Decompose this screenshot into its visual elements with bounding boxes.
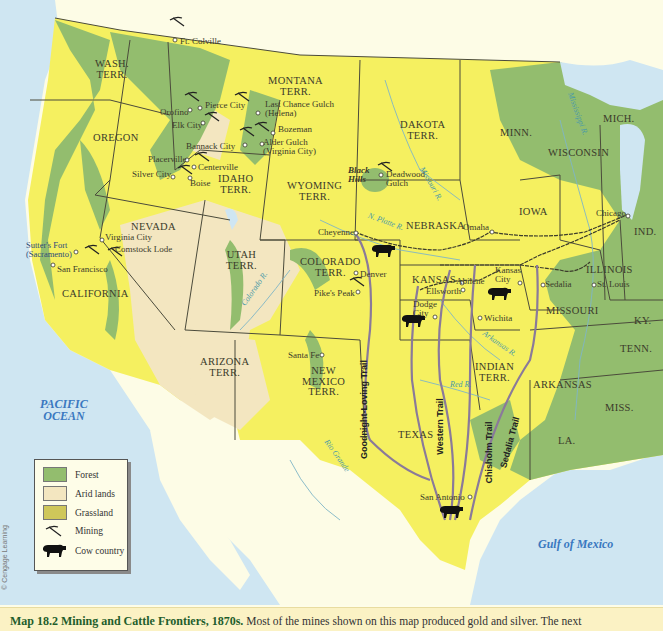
river-label: Red R. xyxy=(450,381,471,389)
state-label: INDIANTERR. xyxy=(475,362,514,383)
state-label: WYOMINGTERR. xyxy=(287,181,342,202)
place-label: Virginia City xyxy=(105,233,152,242)
place-label: Boise xyxy=(190,179,211,188)
state-label: WISCONSIN xyxy=(548,148,609,159)
state-label: MISSOURI xyxy=(546,306,599,317)
place-label: Silver City xyxy=(132,170,171,179)
place-label: Pike's Peak xyxy=(314,289,355,298)
map-caption: Map 18.2 Mining and Cattle Frontiers, 18… xyxy=(0,607,663,631)
state-label: UTAHTERR. xyxy=(226,250,257,271)
place-label: KansasCity xyxy=(495,266,521,284)
pacific-ocean-label: PACIFICOCEAN xyxy=(40,398,88,422)
state-label: IND. xyxy=(634,227,657,238)
cow-icon xyxy=(43,544,67,558)
place-label: Orofino xyxy=(160,108,189,117)
trail-label: Western Trail xyxy=(436,398,445,454)
state-label: TEXAS xyxy=(398,430,433,441)
arid-swatch-icon xyxy=(43,486,67,501)
state-label: KY. xyxy=(634,316,651,327)
state-label: COLORADOTERR. xyxy=(300,257,361,278)
state-label: KANSAS xyxy=(412,275,456,286)
place-label: Wichita xyxy=(484,314,512,323)
legend-item-grassland: Grassland xyxy=(43,505,113,520)
state-label: IDAHOTERR. xyxy=(218,174,253,195)
state-label: NEVADA xyxy=(131,222,176,233)
state-label: LA. xyxy=(558,436,576,447)
caption-title: Mining and Cattle Frontiers, 1870s. xyxy=(61,614,243,628)
place-label: Alder Gulch(Virginia City) xyxy=(263,138,316,156)
place-label: Sedalia xyxy=(545,280,572,289)
place-label: DodgeCity xyxy=(413,300,437,318)
pickaxe-icon xyxy=(43,524,67,538)
legend-item-cow-country: Cow country xyxy=(43,544,124,558)
place-label: Ellsworth xyxy=(426,287,461,296)
place-label: Comstock Lode xyxy=(115,245,172,254)
state-label: WASH.TERR. xyxy=(95,59,129,80)
place-label: San Francisco xyxy=(57,265,108,274)
place-label: Pierce City xyxy=(205,101,245,110)
legend-item-mining: Mining xyxy=(43,524,103,538)
place-label: Cheyenne xyxy=(318,228,354,237)
place-label: Santa Fe xyxy=(288,351,319,360)
black-hills-label: BlackHills xyxy=(348,166,370,184)
state-label: NEBRASKA xyxy=(406,221,465,232)
place-label: Bannack City xyxy=(186,142,235,151)
place-label: Denver xyxy=(360,270,387,279)
gulf-of-mexico-label: Gulf of Mexico xyxy=(538,538,613,550)
place-label: Elk City xyxy=(172,121,202,130)
state-label: CALIFORNIA xyxy=(62,289,129,300)
place-label: Centerville xyxy=(198,163,238,172)
map-legend: Forest Arid lands Grassland Mining Cow c… xyxy=(34,459,128,571)
state-label: MONTANATERR. xyxy=(268,76,323,97)
state-label: TENN. xyxy=(620,344,652,355)
grassland-swatch-icon xyxy=(43,505,67,520)
place-label: Bozeman xyxy=(278,125,312,134)
place-label: St. Louis xyxy=(597,280,630,289)
copyright-credit: © Cengage Learning xyxy=(2,520,14,600)
state-label: MICH. xyxy=(603,114,635,125)
place-label: Ft. Colville xyxy=(180,37,221,46)
forest-swatch-icon xyxy=(43,467,67,482)
state-label: ARKANSAS xyxy=(533,380,592,391)
place-label: San Antonio xyxy=(420,493,465,502)
state-label: DAKOTATERR. xyxy=(400,120,445,141)
state-label: IOWA xyxy=(519,207,548,218)
place-label: Placerville xyxy=(148,155,186,164)
caption-text: Most of the mines shown on this map prod… xyxy=(246,615,581,627)
place-label: Abilene xyxy=(456,277,485,286)
trail-label: Goodnight-Loving Trail xyxy=(360,360,369,459)
place-label: Sutter's Fort(Sacramento) xyxy=(26,241,72,258)
state-label: ARIZONATERR. xyxy=(200,357,249,378)
place-label: Last Chance Gulch(Helena) xyxy=(265,100,334,118)
place-label: Omaha xyxy=(463,223,489,232)
caption-number: Map 18.2 xyxy=(10,614,58,628)
state-label: MISS. xyxy=(605,403,634,414)
state-label: OREGON xyxy=(93,133,139,144)
state-label: MINN. xyxy=(500,128,532,139)
legend-item-arid: Arid lands xyxy=(43,486,115,501)
place-label: Chicago xyxy=(596,209,626,218)
state-label: NEWMEXICOTERR. xyxy=(302,366,345,398)
trail-label: Chisholm Trail xyxy=(485,421,494,483)
legend-item-forest: Forest xyxy=(43,467,99,482)
state-label: ILLINOIS xyxy=(586,265,633,276)
